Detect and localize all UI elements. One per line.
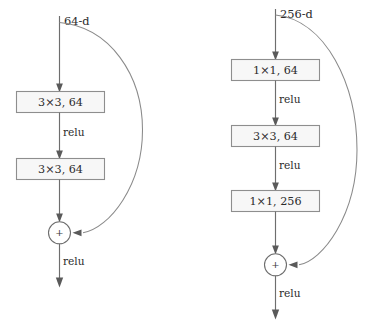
- bottleneck-relu-1-label: relu: [279, 93, 301, 105]
- bottleneck-output-relu-label: relu: [279, 287, 301, 299]
- basic-conv-box-1-label: 3×3, 64: [38, 96, 83, 109]
- figure-root: 64-d 3×3, 64 relu 3×3, 64 + relu: [0, 0, 371, 331]
- bottleneck-conv-box-1-label: 1×1, 64: [253, 64, 298, 77]
- bottleneck-block-diagram: 256-d 1×1, 64 relu 3×3, 64 relu 1×1, 256: [232, 7, 358, 320]
- basic-block-diagram: 64-d 3×3, 64 relu 3×3, 64 + relu: [17, 14, 143, 288]
- bottleneck-relu-2-label: relu: [279, 159, 301, 171]
- basic-addition-glyph: +: [55, 227, 63, 238]
- basic-sum-arrowhead: [56, 214, 63, 223]
- bottleneck-shortcut-arrowhead: [289, 261, 298, 268]
- bottleneck-input-dim-label: 256-d: [280, 7, 313, 21]
- basic-output-relu-label: relu: [63, 255, 85, 267]
- bottleneck-sum-arrowhead: [272, 246, 279, 255]
- basic-conv-box-2-label: 3×3, 64: [38, 163, 83, 176]
- basic-relu-1-label: relu: [63, 126, 85, 138]
- bottleneck-conv-box-3-label: 1×1, 256: [249, 195, 301, 208]
- bottleneck-output-arrowhead: [272, 310, 279, 320]
- basic-shortcut-arrowhead: [73, 229, 82, 236]
- resnet-block-figure: 64-d 3×3, 64 relu 3×3, 64 + relu: [0, 0, 371, 331]
- basic-output-arrowhead: [56, 278, 63, 288]
- bottleneck-addition-glyph: +: [271, 259, 279, 270]
- bottleneck-conv-box-2-label: 3×3, 64: [253, 130, 298, 143]
